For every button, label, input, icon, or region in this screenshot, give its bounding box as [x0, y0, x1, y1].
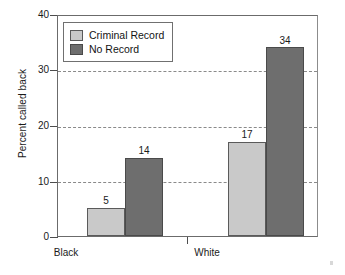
y-tick-label-40: 40	[9, 10, 49, 20]
legend-item-criminal-record[interactable]: Criminal Record	[70, 28, 164, 42]
chart-legend: Criminal Record No Record	[63, 22, 173, 62]
legend-swatch-criminal-record	[70, 30, 83, 41]
bar-white-criminal-record[interactable]	[228, 142, 266, 236]
bar-chart-figure: Percent called back 40 30 20 10 0 5 14 1…	[0, 0, 345, 275]
x-tick-label-black: Black	[31, 247, 101, 258]
legend-swatch-no-record	[70, 44, 83, 55]
bar-value-white-no-record: 34	[265, 35, 305, 46]
legend-label-no-record: No Record	[89, 43, 139, 55]
bar-black-no-record[interactable]	[125, 158, 163, 236]
legend-label-criminal-record: Criminal Record	[89, 29, 164, 41]
bar-white-no-record[interactable]	[266, 47, 304, 236]
y-tick-label-0: 0	[9, 232, 49, 242]
scan-artifact	[330, 261, 333, 265]
bar-value-black-criminal-record: 5	[86, 195, 126, 206]
legend-item-no-record[interactable]: No Record	[70, 42, 164, 56]
y-tick-label-10: 10	[9, 177, 49, 187]
plot-area: 5 14 17 34 Criminal Record No Record	[57, 15, 318, 237]
bar-value-black-no-record: 14	[124, 145, 164, 156]
y-tick-mark-0	[50, 237, 58, 238]
y-tick-label-20: 20	[9, 121, 49, 131]
x-tick-mark-group-divider	[187, 237, 188, 244]
y-tick-label-30: 30	[9, 65, 49, 75]
bar-value-white-criminal-record: 17	[227, 129, 267, 140]
bar-black-criminal-record[interactable]	[87, 208, 125, 236]
x-tick-label-white: White	[172, 247, 242, 258]
